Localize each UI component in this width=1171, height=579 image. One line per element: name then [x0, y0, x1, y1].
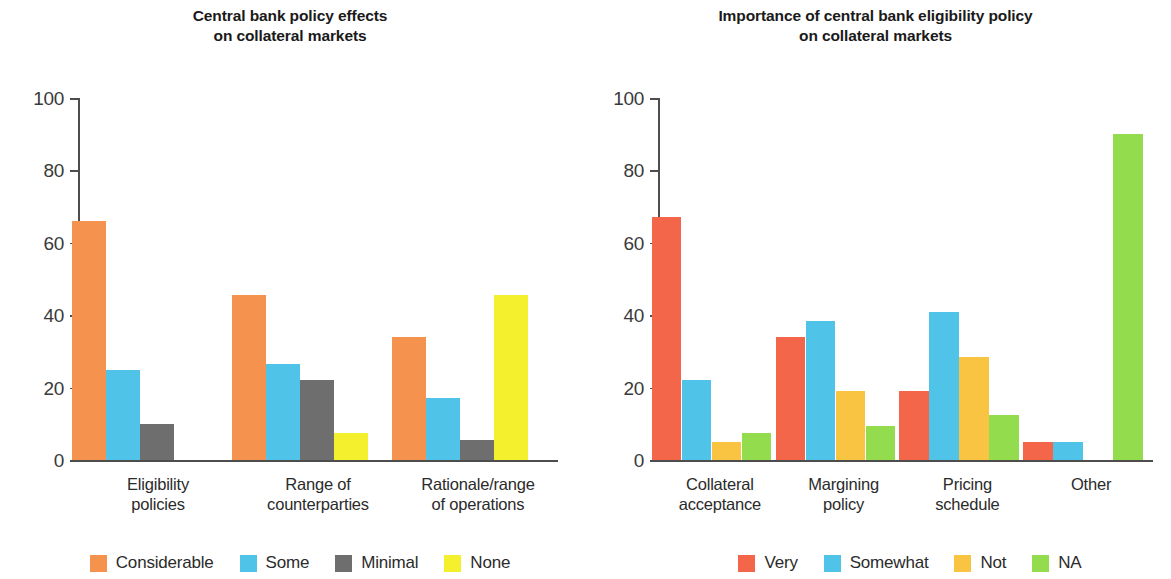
x-axis-group-label-line: of operations: [379, 494, 577, 514]
bar: [460, 440, 494, 460]
bar: [959, 357, 989, 460]
x-axis-group-label: Other: [1014, 474, 1167, 494]
legend-item[interactable]: None: [444, 553, 510, 573]
legend-item[interactable]: Somewhat: [824, 553, 955, 573]
y-axis-tick-label: 20: [16, 378, 64, 397]
y-axis-tick-label: 80: [596, 161, 644, 180]
y-axis-tick-label: 0: [596, 451, 644, 470]
dual-bar-chart-figure: Central bank policy effects on collatera…: [0, 0, 1171, 579]
bar: [106, 370, 140, 461]
bar: [232, 295, 266, 460]
legend-swatch-icon: [240, 555, 257, 572]
legend-label: Somewhat: [850, 553, 929, 573]
legend-swatch-icon: [1032, 555, 1049, 572]
x-axis-line: [658, 460, 1153, 462]
bar: [266, 364, 300, 460]
x-axis-group-label-line: Other: [1014, 474, 1167, 494]
legend-swatch-icon: [90, 555, 107, 572]
y-axis-tick-label: 0: [16, 451, 64, 470]
bar: [929, 312, 959, 460]
legend-label: Some: [266, 553, 310, 573]
legend-item[interactable]: Some: [240, 553, 336, 573]
bar: [140, 424, 174, 460]
x-axis-group-label: Rationale/rangeof operations: [379, 474, 577, 514]
plot-area-right: 020406080100CollateralacceptanceMarginin…: [580, 0, 1171, 579]
y-axis-tick-label: 60: [596, 233, 644, 252]
legend-swatch-icon: [738, 555, 755, 572]
legend-swatch-icon: [335, 555, 352, 572]
x-axis-line: [78, 460, 558, 462]
chart-legend-right: VerySomewhatNotNA: [670, 553, 1150, 573]
y-axis-tick-label: 100: [16, 89, 64, 108]
bar: [742, 433, 772, 460]
bar: [1053, 442, 1083, 460]
bar: [836, 391, 866, 460]
x-axis-group-label-line: schedule: [891, 494, 1044, 514]
bar: [1023, 442, 1053, 460]
legend-label: Very: [764, 553, 797, 573]
chart-panel-right: Importance of central bank eligibility p…: [580, 0, 1171, 579]
legend-label: NA: [1058, 553, 1081, 573]
legend-swatch-icon: [824, 555, 841, 572]
bar: [392, 337, 426, 460]
legend-swatch-icon: [444, 555, 461, 572]
legend-label: Not: [980, 553, 1006, 573]
bar: [866, 426, 896, 460]
chart-legend-left: ConsiderableSomeMinimalNone: [40, 553, 560, 573]
legend-label: Minimal: [361, 553, 418, 573]
bar: [72, 221, 106, 460]
y-axis-tick-label: 20: [596, 378, 644, 397]
legend-item[interactable]: Considerable: [90, 553, 240, 573]
bar: [652, 217, 682, 460]
y-axis-tick: [70, 460, 78, 462]
y-axis-tick: [650, 460, 658, 462]
y-axis-tick: [70, 170, 78, 172]
y-axis-tick-label: 40: [16, 306, 64, 325]
chart-panel-left: Central bank policy effects on collatera…: [0, 0, 580, 579]
legend-item[interactable]: Very: [738, 553, 823, 573]
y-axis-tick-label: 60: [16, 233, 64, 252]
legend-item[interactable]: Not: [954, 553, 1032, 573]
y-axis-tick-label: 100: [596, 89, 644, 108]
legend-item[interactable]: Minimal: [335, 553, 444, 573]
x-axis-group-label-line: Rationale/range: [379, 474, 577, 494]
legend-swatch-icon: [954, 555, 971, 572]
y-axis-tick: [70, 98, 78, 100]
legend-item[interactable]: NA: [1032, 553, 1081, 573]
bar: [426, 398, 460, 460]
plot-area-left: 020406080100EligibilitypoliciesRange ofc…: [0, 0, 580, 579]
bar: [712, 442, 742, 460]
bar: [776, 337, 806, 460]
legend-label: Considerable: [116, 553, 214, 573]
y-axis-tick-label: 80: [16, 161, 64, 180]
bar: [989, 415, 1019, 460]
bar: [1113, 134, 1143, 460]
y-axis-tick: [650, 170, 658, 172]
y-axis-tick-label: 40: [596, 306, 644, 325]
legend-label: None: [470, 553, 510, 573]
y-axis-tick: [650, 98, 658, 100]
bar: [494, 295, 528, 460]
bar: [806, 321, 836, 460]
bar: [300, 380, 334, 460]
bar: [899, 391, 929, 460]
bar: [334, 433, 368, 460]
bar: [682, 380, 712, 460]
